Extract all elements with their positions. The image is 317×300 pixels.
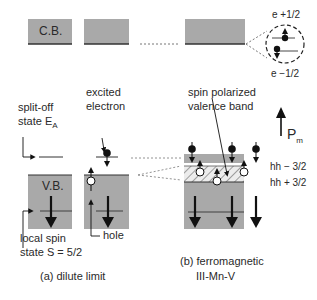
cb-label: C.B.	[39, 25, 62, 38]
caption-a: (a) dilute limit	[40, 270, 105, 283]
spin-polarized-label-1: spin polarized	[188, 86, 256, 99]
cb-spin-up-label: e +1/2	[272, 8, 300, 21]
caption-b-2: III-Mn-V	[196, 270, 235, 283]
local-spin-label-1: local spin	[20, 232, 66, 245]
excited-electron-label-2: electron	[86, 100, 125, 113]
hole-label: hole	[103, 229, 124, 242]
cb-spin-down-label: e −1/2	[271, 67, 299, 80]
hh-plus-label: hh + 3/2	[270, 176, 306, 189]
hh-minus-label: hh − 3/2	[270, 160, 306, 173]
excited-electron-label-1: excited	[86, 86, 121, 99]
spin-polarized-valence-band	[184, 98, 262, 229]
split-off-label-1: split-off	[18, 101, 53, 114]
caption-b-1: (b) ferromagnetic	[180, 255, 264, 268]
vb-label: V.B.	[42, 180, 64, 193]
split-off-label-2: state EA	[18, 115, 58, 132]
magnetization-label: Pm	[287, 128, 303, 147]
magnetization-arrow-icon	[276, 107, 286, 136]
local-spin-label-2: state S = 5/2	[20, 246, 82, 259]
split-off-state	[23, 137, 63, 157]
spin-polarized-label-2: valence band	[188, 100, 253, 113]
cb-spin-splitting-inset	[246, 25, 304, 63]
valence-band-right	[84, 138, 181, 236]
